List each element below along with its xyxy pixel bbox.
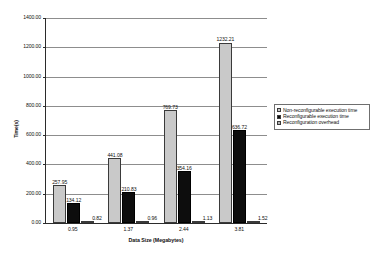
plot-area: 1400.001200.001000.00800.00600.00400.002…: [45, 18, 267, 224]
bar-value-label: 257.95: [52, 180, 67, 185]
bar-value-label: 769.73: [163, 105, 178, 110]
bar[interactable]: 257.95: [53, 185, 66, 223]
bar[interactable]: 636.72: [233, 130, 246, 223]
bar-value-label: 134.12: [66, 198, 81, 203]
bar[interactable]: 1.13: [192, 221, 205, 223]
y-axis-tick-label: 800.00: [26, 103, 41, 108]
bar[interactable]: 1.52: [247, 221, 260, 223]
x-axis-tick-label: 0.95: [45, 226, 101, 236]
bar-value-label: 210.83: [121, 187, 136, 192]
bar-value-label: 0.82: [92, 216, 102, 221]
y-axis-tick-label: 1000.00: [23, 74, 41, 79]
legend-swatch-icon: [277, 108, 281, 112]
bar-slot: 1232.21: [219, 18, 232, 223]
bar-group: 769.73354.161.13: [157, 18, 212, 223]
legend-swatch-icon: [277, 121, 281, 125]
bar-slot: 0.96: [136, 18, 149, 223]
bar-value-label: 1.52: [258, 216, 268, 221]
bar-slot: 441.08: [108, 18, 121, 223]
bar-group: 1232.21636.721.52: [212, 18, 267, 223]
y-axis-tick-label: 1400.00: [23, 15, 41, 20]
x-axis-tick-label: 2.44: [156, 226, 212, 236]
bar-slot: 354.16: [178, 18, 191, 223]
bar[interactable]: 769.73: [164, 110, 177, 223]
y-axis-tick-label: 1200.00: [23, 45, 41, 50]
y-axis-title: Time(s): [13, 120, 19, 138]
legend-swatch-icon: [277, 115, 281, 119]
y-axis-tick-label: 600.00: [26, 133, 41, 138]
legend-item[interactable]: Reconfiguration overhead: [277, 120, 367, 126]
legend-item-label: Reconfiguration overhead: [283, 120, 339, 126]
bar[interactable]: 0.82: [81, 221, 94, 223]
x-axis-tick-label: 1.37: [101, 226, 157, 236]
x-axis-title: Data Size (Megabytes): [45, 237, 267, 243]
bar-slot: 769.73: [164, 18, 177, 223]
bar[interactable]: 0.96: [136, 221, 149, 223]
x-axis-tick-labels: 0.951.372.443.81: [45, 226, 267, 236]
bar-slot: 636.72: [233, 18, 246, 223]
bar-value-label: 354.16: [177, 166, 192, 171]
bar[interactable]: 441.08: [108, 158, 121, 223]
y-axis-tick-label: 200.00: [26, 191, 41, 196]
bar-value-label: 0.96: [147, 216, 157, 221]
bars-layer: 257.95134.120.82441.08210.830.96769.7335…: [46, 18, 267, 223]
bar-group: 257.95134.120.82: [46, 18, 101, 223]
legend: Non-reconfigurable execution timeReconfi…: [274, 104, 370, 130]
bar-slot: 210.83: [122, 18, 135, 223]
bar-chart: Time(s) 1400.001200.001000.00800.00600.0…: [0, 0, 376, 258]
bar[interactable]: 1232.21: [219, 43, 232, 223]
bar-slot: 0.82: [81, 18, 94, 223]
bar[interactable]: 210.83: [122, 192, 135, 223]
bar-slot: 1.52: [247, 18, 260, 223]
y-axis-tick-label: 400.00: [26, 162, 41, 167]
bar[interactable]: 134.12: [67, 203, 80, 223]
x-axis-tick-label: 3.81: [212, 226, 268, 236]
bar-slot: 257.95: [53, 18, 66, 223]
bar-value-label: 636.72: [232, 125, 247, 130]
y-axis-tick-label: 0.00: [31, 220, 41, 225]
bar-slot: 134.12: [67, 18, 80, 223]
bar-value-label: 1.13: [203, 216, 213, 221]
bar-slot: 1.13: [192, 18, 205, 223]
bar-value-label: 441.08: [107, 153, 122, 158]
bar[interactable]: 354.16: [178, 171, 191, 223]
bar-group: 441.08210.830.96: [101, 18, 156, 223]
bar-value-label: 1232.21: [217, 37, 235, 42]
y-axis-tick: [43, 223, 46, 224]
